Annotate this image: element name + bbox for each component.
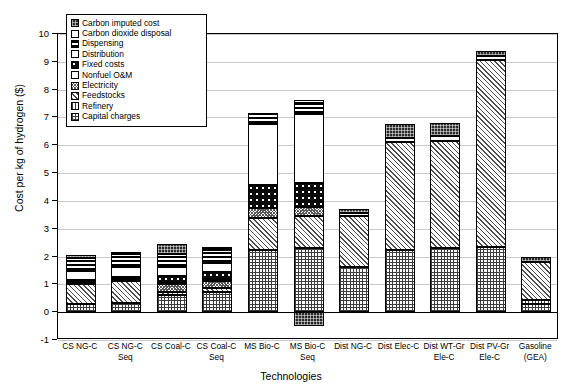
bar-segment xyxy=(111,279,141,281)
bar-segment xyxy=(157,276,187,282)
legend-swatch-electricity-icon xyxy=(71,82,79,90)
legend-item-label: Distribution xyxy=(82,50,124,59)
bar-stack[interactable] xyxy=(248,34,278,338)
x-axis-tick-label: CS Coal-C xyxy=(148,341,194,352)
bar-segment xyxy=(385,250,415,313)
chart-legend: Carbon imputed costCarbon dioxide dispos… xyxy=(66,14,207,127)
bar-stack[interactable] xyxy=(476,34,506,338)
bar-segment xyxy=(430,141,460,248)
bar-segment xyxy=(430,136,460,140)
y-axis: -1012345678910 xyxy=(0,33,57,339)
bar-segment xyxy=(66,258,96,271)
legend-item: Carbon imputed cost xyxy=(71,18,202,28)
bar-segment xyxy=(202,250,232,263)
y-axis-tick-label: 5 xyxy=(44,167,49,178)
legend-swatch-distribution-icon xyxy=(71,50,79,58)
bar-segment-negative xyxy=(294,312,324,326)
bar-segment xyxy=(66,280,96,282)
bar-segment xyxy=(157,284,187,291)
bar-stack[interactable] xyxy=(385,34,415,338)
bar-segment xyxy=(202,281,232,288)
legend-swatch-refinery-icon xyxy=(71,102,79,110)
bar-segment xyxy=(66,271,96,280)
x-axis-tick-label: CS NG-C xyxy=(57,341,103,352)
y-axis-tick-label: 7 xyxy=(44,111,49,122)
y-axis-tick-label: 4 xyxy=(44,194,49,205)
bar-segment xyxy=(248,218,278,251)
bar-segment xyxy=(248,185,278,209)
legend-swatch-dispensing-icon xyxy=(71,40,79,48)
legend-item-label: Carbon dioxide disposal xyxy=(82,29,171,38)
y-axis-tick-label: 10 xyxy=(38,28,49,39)
bar-segment xyxy=(202,292,232,312)
bar-stack[interactable] xyxy=(521,34,551,338)
legend-swatch-feedstocks-icon xyxy=(71,92,79,100)
bar-segment xyxy=(111,303,141,312)
legend-item: Refinery xyxy=(71,101,202,111)
bar-segment xyxy=(294,183,324,207)
bar-segment xyxy=(430,248,460,313)
legend-item: Carbon dioxide disposal xyxy=(71,28,202,38)
bar-segment xyxy=(521,304,551,312)
bar-segment xyxy=(476,247,506,312)
bar-stack[interactable] xyxy=(294,34,324,338)
legend-item-label: Refinery xyxy=(82,102,113,111)
bar-segment xyxy=(66,255,96,258)
legend-item: Distribution xyxy=(71,49,202,59)
legend-item: Dispensing xyxy=(71,39,202,49)
bar-segment xyxy=(476,51,506,57)
bar-segment xyxy=(294,100,324,103)
y-axis-tick-label: 1 xyxy=(44,278,49,289)
bar-segment xyxy=(476,56,506,60)
bar-segment xyxy=(202,247,232,249)
x-axis-tick-label: Dist Elec-C xyxy=(376,341,422,352)
legend-swatch-fixed-icon xyxy=(71,61,79,69)
x-axis-tick-label: MS Bio-C Seq xyxy=(285,341,331,362)
bar-segment xyxy=(157,295,187,312)
bar-segment xyxy=(111,252,141,254)
bar-segment xyxy=(157,267,187,276)
bar-stack[interactable] xyxy=(339,34,369,338)
bar-segment xyxy=(202,263,232,272)
bar-segment xyxy=(111,267,141,277)
bar-segment xyxy=(66,304,96,312)
y-axis-tick-label: 6 xyxy=(44,139,49,150)
bar-stack[interactable] xyxy=(430,34,460,338)
bar-segment xyxy=(202,279,232,281)
x-axis-tick-label: Dist NG-C xyxy=(330,341,376,352)
bar-segment xyxy=(294,216,324,248)
bar-segment xyxy=(339,216,369,267)
legend-item-label: Fixed costs xyxy=(82,60,124,69)
bar-segment xyxy=(202,288,232,292)
bar-segment xyxy=(385,138,415,142)
legend-item: Capital charges xyxy=(71,112,202,122)
bar-segment xyxy=(157,292,187,295)
bar-segment xyxy=(521,257,551,263)
bar-segment xyxy=(476,60,506,247)
bar-segment xyxy=(521,300,551,303)
bar-segment xyxy=(157,244,187,254)
bar-segment xyxy=(248,124,278,185)
legend-swatch-carbon-imputed-icon xyxy=(71,19,79,27)
bar-segment xyxy=(157,282,187,284)
legend-item-label: Carbon imputed cost xyxy=(82,19,159,28)
legend-item-label: Electricity xyxy=(82,81,118,90)
legend-swatch-co2-disposal-icon xyxy=(71,30,79,38)
bar-segment xyxy=(202,272,232,279)
y-axis-tick-label: 3 xyxy=(44,222,49,233)
y-axis-tick-label: -1 xyxy=(41,334,49,345)
x-axis-tick-label: CS Coal-C Seq xyxy=(194,341,240,362)
bar-segment xyxy=(66,282,96,284)
bar-segment xyxy=(248,250,278,312)
legend-item: Feedstocks xyxy=(71,91,202,101)
bar-segment xyxy=(294,248,324,312)
legend-swatch-capital-icon xyxy=(71,113,79,121)
legend-item-label: Feedstocks xyxy=(82,91,125,100)
bar-segment xyxy=(66,284,96,304)
legend-item: Nonfuel O&M xyxy=(71,70,202,80)
bar-segment xyxy=(339,209,369,213)
y-axis-tick-label: 2 xyxy=(44,250,49,261)
bar-segment xyxy=(339,213,369,216)
y-axis-tick-label: 9 xyxy=(44,55,49,66)
y-axis-tick-mark xyxy=(52,339,57,340)
